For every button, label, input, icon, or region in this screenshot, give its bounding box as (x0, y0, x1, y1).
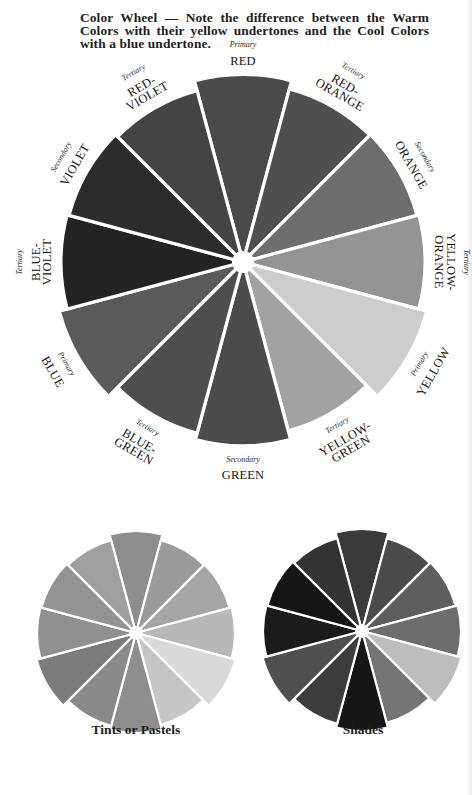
label-color-name: ORANGE (432, 235, 446, 288)
shades-caption: Shades (263, 722, 463, 738)
main-color-wheel (59, 75, 426, 446)
tints-caption: Tints or Pastels (36, 722, 236, 738)
label-blue: PrimaryBLUE (38, 347, 79, 390)
shades-color-wheel (263, 529, 462, 731)
label-color-name: RED (230, 54, 256, 68)
label-yellow-orange: TertiaryYELLOW-ORANGE (432, 233, 471, 291)
label-blue-violet: TertiaryBLUE-VIOLET (15, 239, 54, 285)
label-red: PrimaryRED (229, 40, 257, 68)
tints-color-wheel (37, 531, 236, 733)
label-green: SecondaryGREEN (222, 455, 265, 483)
label-category: Primary (229, 40, 257, 49)
label-category: Tertiary (462, 249, 471, 275)
wheel-hub (232, 251, 254, 273)
label-category: Secondary (226, 455, 260, 464)
color-wheel-figure: PrimaryREDTertiaryRED-ORANGESecondaryORA… (0, 0, 472, 795)
wheel-hub (355, 624, 369, 638)
label-blue-green: TertiaryBLUE-GREEN (112, 413, 168, 468)
label-category: Tertiary (15, 249, 24, 275)
wheel-hub (129, 626, 143, 640)
label-color-name: VIOLET (40, 239, 54, 285)
label-color-name: GREEN (222, 468, 265, 482)
